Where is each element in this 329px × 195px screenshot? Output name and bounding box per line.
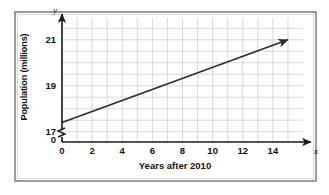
- svg-text:x: x: [313, 146, 318, 156]
- line-chart-plot: 024681012141719210xy: [0, 0, 329, 195]
- svg-text:19: 19: [45, 80, 56, 91]
- svg-text:0: 0: [59, 145, 64, 156]
- gridlines: [62, 18, 303, 142]
- data-series-line: [62, 40, 288, 123]
- svg-text:14: 14: [268, 145, 279, 156]
- svg-text:0: 0: [51, 134, 56, 145]
- tick-labels: 024681012141719210xy: [45, 5, 318, 156]
- svg-text:2: 2: [89, 145, 94, 156]
- svg-text:y: y: [52, 5, 57, 15]
- figure-container: Population (millions) Years after 2010 0…: [0, 0, 329, 195]
- svg-text:6: 6: [150, 145, 155, 156]
- svg-text:12: 12: [237, 145, 248, 156]
- svg-text:21: 21: [45, 34, 56, 45]
- svg-text:10: 10: [207, 145, 218, 156]
- svg-text:4: 4: [120, 145, 126, 156]
- svg-text:8: 8: [180, 145, 185, 156]
